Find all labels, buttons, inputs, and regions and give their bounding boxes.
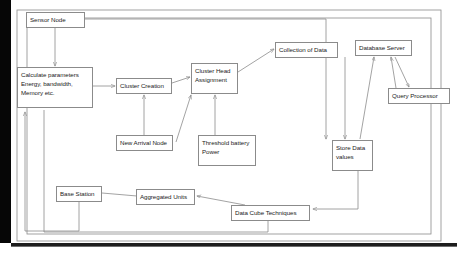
node-data-cube-techniques[interactable]: Data Cube Techniques <box>231 205 310 221</box>
node-cluster-head-assignment[interactable]: Cluster Head Assignment <box>191 63 238 94</box>
node-base-station[interactable]: Base Station <box>56 186 102 202</box>
node-collection-of-data[interactable]: Collection of Data <box>275 42 338 58</box>
edge-store-to-database <box>360 57 374 139</box>
edge-data-cube-to-aggregated <box>197 196 245 205</box>
edge-aggregated-to-base-station <box>102 193 137 196</box>
node-database-server[interactable]: Database Server <box>355 40 412 56</box>
edge-database-to-query <box>395 57 409 87</box>
edge-store-to-data-cube <box>313 170 358 209</box>
node-threshold-battery-power[interactable]: Threshold battery Power <box>198 135 256 166</box>
edge-query-to-database <box>391 57 396 88</box>
bottom-margin-band <box>0 247 457 268</box>
edge-base-station-to-calculate <box>25 112 79 231</box>
node-calculate-parameters[interactable]: Calculate parameters Energy, bandwidth, … <box>17 67 93 108</box>
edge-cluster-head-to-collection <box>238 49 274 72</box>
node-sensor-node[interactable]: Sensor Node <box>26 12 85 28</box>
edge-new-arrival-to-cluster-head <box>176 95 191 142</box>
diagram-canvas: Sensor Node Calculate parameters Energy,… <box>0 0 457 268</box>
node-query-processor[interactable]: Query Processor <box>388 88 450 104</box>
node-new-arrival-node[interactable]: New Arrival Node <box>116 135 173 151</box>
left-scan-band <box>0 0 11 243</box>
node-store-data-values[interactable]: Store Data values <box>332 140 373 171</box>
node-cluster-creation[interactable]: Cluster Creation <box>116 78 172 94</box>
node-aggregated-units[interactable]: Aggregated Units <box>136 189 195 205</box>
edge-cluster-creation-to-head <box>172 77 190 83</box>
bottom-rule-secondary <box>11 246 457 247</box>
